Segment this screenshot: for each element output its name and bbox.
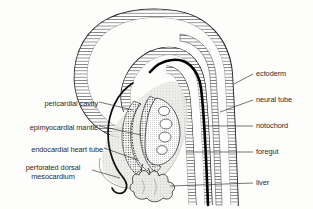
leader-ectoderm	[234, 74, 253, 84]
label-foregut: foregut	[256, 148, 278, 157]
embryo-heart-diagram: pericardial cavity epimyocardial mantle …	[0, 0, 313, 209]
label-perforated-dorsal-mesocardium-line2: mesocardium	[14, 173, 92, 182]
vessel-lumen-2	[160, 119, 172, 129]
leader-neural-tube	[220, 100, 253, 112]
vessel-lumen-3	[159, 132, 171, 142]
liver-group	[130, 171, 174, 202]
vessel-lumen-1	[159, 106, 170, 115]
label-epimyocardial-mantle: epimyocardial mantle	[0, 124, 98, 133]
liver-outline	[130, 171, 174, 202]
label-endocardial-heart-tube: endocardial heart tube	[0, 146, 103, 155]
label-neural-tube: neural tube	[256, 96, 292, 105]
vessel-lumen-4	[157, 146, 167, 155]
label-liver: liver	[256, 179, 269, 188]
label-pericardial-cavity: pericardial cavity	[0, 100, 98, 109]
label-ectoderm: ectoderm	[256, 70, 286, 79]
label-notochord: notochord	[256, 122, 288, 131]
